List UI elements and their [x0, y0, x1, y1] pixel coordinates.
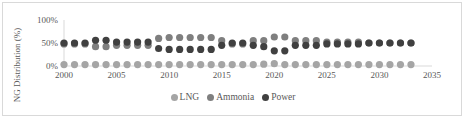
data-point	[155, 45, 162, 52]
data-point	[323, 40, 330, 47]
legend: LNGAmmoniaPower	[0, 92, 466, 103]
data-point	[113, 38, 120, 45]
x-tick-label: 2020	[265, 70, 284, 80]
y-tick-label: 50%	[42, 38, 59, 48]
data-point	[134, 61, 141, 68]
data-point	[208, 46, 215, 53]
axes: 0%50%100%2000200520102015202020252030203…	[12, 15, 442, 102]
data-point	[145, 61, 152, 68]
data-point	[197, 61, 204, 68]
legend-item-ammonia: Ammonia	[207, 92, 254, 102]
data-point	[176, 61, 183, 68]
data-point	[250, 42, 257, 49]
data-point	[92, 61, 99, 68]
data-point	[250, 61, 257, 68]
x-tick-label: 2005	[108, 70, 127, 80]
data-point	[71, 61, 78, 68]
data-point	[197, 34, 204, 41]
data-point	[187, 61, 194, 68]
data-point	[376, 39, 383, 46]
data-point	[386, 39, 393, 46]
data-point	[60, 61, 67, 68]
data-point	[323, 61, 330, 68]
legend-marker-icon	[171, 94, 178, 101]
data-point	[281, 61, 288, 68]
legend-item-lng: LNG	[171, 92, 200, 102]
data-point	[334, 40, 341, 47]
data-point	[292, 42, 299, 49]
data-point	[239, 39, 246, 46]
legend-label: Ammonia	[216, 92, 254, 102]
data-point	[386, 61, 393, 68]
legend-label: Power	[271, 92, 295, 102]
x-tick-label: 2030	[370, 70, 389, 80]
data-point	[123, 38, 130, 45]
data-point	[187, 46, 194, 53]
data-point	[260, 43, 267, 50]
data-point	[313, 42, 320, 49]
legend-marker-icon	[207, 94, 214, 101]
data-point	[407, 39, 414, 46]
data-point	[365, 39, 372, 46]
data-point	[92, 43, 99, 50]
data-point	[166, 46, 173, 53]
data-point	[102, 37, 109, 44]
data-point	[102, 43, 109, 50]
data-point	[344, 61, 351, 68]
data-point	[365, 61, 372, 68]
data-point	[229, 61, 236, 68]
data-point	[197, 46, 204, 53]
data-point	[176, 34, 183, 41]
legend-marker-icon	[262, 94, 269, 101]
data-point	[176, 46, 183, 53]
data-point	[123, 61, 130, 68]
data-point	[208, 34, 215, 41]
data-point	[218, 61, 225, 68]
data-point	[208, 61, 215, 68]
data-points	[60, 33, 414, 68]
data-point	[355, 61, 362, 68]
data-point	[102, 61, 109, 68]
data-point	[71, 39, 78, 46]
series-lng	[60, 60, 414, 68]
data-point	[313, 61, 320, 68]
data-point	[397, 61, 404, 68]
data-point	[292, 61, 299, 68]
x-tick-label: 2010	[160, 70, 179, 80]
x-tick-label: 2025	[318, 70, 337, 80]
data-point	[239, 61, 246, 68]
data-point	[397, 39, 404, 46]
data-point	[344, 40, 351, 47]
data-point	[81, 39, 88, 46]
data-point	[218, 42, 225, 49]
data-point	[166, 61, 173, 68]
data-point	[155, 35, 162, 42]
data-point	[281, 47, 288, 54]
data-point	[60, 39, 67, 46]
data-point	[155, 61, 162, 68]
data-point	[407, 61, 414, 68]
data-point	[145, 38, 152, 45]
data-point	[334, 61, 341, 68]
data-point	[281, 33, 288, 40]
data-point	[271, 47, 278, 54]
data-point	[302, 61, 309, 68]
data-point	[229, 39, 236, 46]
data-point	[81, 61, 88, 68]
data-point	[187, 34, 194, 41]
data-point	[113, 61, 120, 68]
data-point	[271, 33, 278, 40]
x-tick-label: 2035	[423, 70, 442, 80]
data-point	[134, 38, 141, 45]
data-point	[302, 42, 309, 49]
data-point	[271, 60, 278, 67]
legend-item-power: Power	[262, 92, 295, 102]
data-point	[92, 37, 99, 44]
x-tick-label: 2000	[55, 70, 74, 80]
legend-label: LNG	[180, 92, 200, 102]
y-tick-label: 100%	[37, 15, 59, 25]
data-point	[260, 61, 267, 68]
data-point	[166, 34, 173, 41]
data-point	[355, 40, 362, 47]
x-tick-label: 2015	[213, 70, 232, 80]
